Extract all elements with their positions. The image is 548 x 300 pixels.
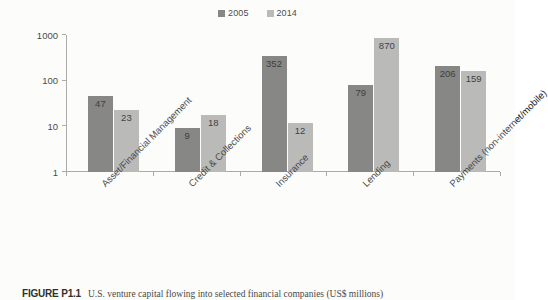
x-axis-tick bbox=[500, 172, 501, 176]
bar-2005-1[interactable]: 9 bbox=[175, 128, 200, 172]
bar-value-label: 23 bbox=[114, 113, 139, 123]
legend-entry-2014: 2014 bbox=[267, 9, 297, 18]
x-axis-tick bbox=[240, 172, 241, 176]
bar-value-label: 18 bbox=[201, 118, 226, 128]
legend-entry-2005: 2005 bbox=[218, 9, 248, 18]
bar-value-label: 352 bbox=[262, 59, 287, 69]
y-axis-tick-label: 10 bbox=[47, 122, 58, 132]
legend-swatch-2014 bbox=[267, 10, 274, 17]
bar-value-label: 47 bbox=[88, 99, 113, 109]
y-axis-tick bbox=[62, 34, 66, 35]
bar-2005-0[interactable]: 47 bbox=[88, 96, 113, 172]
legend-swatch-2005 bbox=[218, 10, 225, 17]
bar-2005-2[interactable]: 352 bbox=[262, 56, 287, 172]
x-axis-tick bbox=[153, 172, 154, 176]
bar-2005-3[interactable]: 79 bbox=[348, 85, 373, 172]
y-axis-line bbox=[66, 35, 67, 172]
legend-label-2014: 2014 bbox=[277, 9, 297, 18]
bar-value-label: 206 bbox=[435, 69, 460, 79]
chart-legend: 2005 2014 bbox=[0, 9, 515, 18]
y-axis-tick-label: 100 bbox=[42, 76, 58, 86]
figure-caption-text: U.S. venture capital flowing into select… bbox=[88, 289, 383, 299]
bar-2014-3[interactable]: 870 bbox=[374, 38, 399, 172]
y-axis-tick bbox=[62, 80, 66, 81]
bar-group: 35212 bbox=[262, 35, 313, 172]
bar-value-label: 9 bbox=[175, 131, 200, 141]
bar-group: 79870 bbox=[348, 35, 399, 172]
y-axis-tick-label: 1000 bbox=[37, 31, 58, 41]
bar-value-label: 12 bbox=[288, 126, 313, 136]
x-axis-tick bbox=[413, 172, 414, 176]
bar-value-label: 159 bbox=[461, 74, 486, 84]
figure-caption-label: FIGURE P1.1 bbox=[22, 288, 81, 299]
figure-caption: FIGURE P1.1U.S. venture capital flowing … bbox=[22, 288, 502, 300]
bar-value-label: 870 bbox=[374, 41, 399, 51]
bar-value-label: 79 bbox=[348, 88, 373, 98]
bar-2005-4[interactable]: 206 bbox=[435, 66, 460, 172]
x-axis-tick bbox=[326, 172, 327, 176]
legend-label-2005: 2005 bbox=[228, 9, 248, 18]
y-axis-tick-label: 1 bbox=[53, 168, 58, 178]
x-axis-tick bbox=[66, 172, 67, 176]
y-axis-tick bbox=[62, 125, 66, 126]
